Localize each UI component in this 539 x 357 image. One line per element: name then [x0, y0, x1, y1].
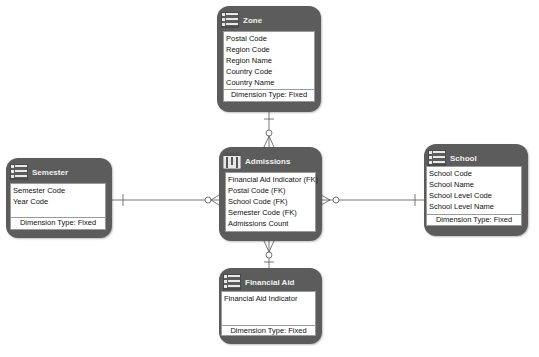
entity-title: Admissions: [245, 157, 290, 166]
entity-body: Semester Code Year Code Dimension Type: …: [10, 183, 106, 230]
attribute: Admissions Count: [228, 218, 313, 229]
fact-table-icon: [223, 153, 241, 169]
dimension-type-label: Dimension Type: Fixed: [222, 325, 315, 336]
attribute: School Code: [429, 168, 519, 179]
entity-zone[interactable]: Zone Postal Code Region Code Region Name…: [217, 6, 321, 112]
dimension-table-icon: [10, 164, 28, 180]
entity-school[interactable]: School School Code School Name School Le…: [424, 144, 528, 236]
entity-title: Financial Aid: [245, 278, 295, 287]
entity-admissions[interactable]: Admissions Financial Aid Indicator (FK) …: [219, 147, 322, 241]
entity-body: School Code School Name School Level Cod…: [426, 166, 522, 226]
entity-header: Admissions: [223, 151, 318, 171]
entity-header: Semester: [10, 162, 108, 182]
entity-title: School: [450, 154, 477, 163]
attribute: Postal Code (FK): [228, 185, 313, 196]
attribute: Semester Code: [13, 185, 103, 196]
dimension-type-label: Dimension Type: Fixed: [427, 214, 521, 225]
attribute: Financial Aid Indicator: [224, 293, 313, 304]
attribute: Year Code: [13, 196, 103, 207]
entity-header: Zone: [221, 10, 317, 30]
entity-financial-aid[interactable]: Financial Aid Financial Aid Indicator Di…: [219, 268, 322, 344]
attribute: Region Code: [226, 44, 312, 55]
entity-header: Financial Aid: [223, 272, 318, 292]
dimension-table-icon: [221, 12, 239, 28]
attribute: Postal Code: [226, 33, 312, 44]
attribute: Financial Aid Indicator (FK): [228, 174, 313, 185]
attribute: School Code (FK): [228, 196, 313, 207]
attribute: Region Name: [226, 55, 312, 66]
attribute: Country Name: [226, 77, 312, 88]
entity-body: Financial Aid Indicator (FK) Postal Code…: [225, 172, 316, 232]
entity-semester[interactable]: Semester Semester Code Year Code Dimensi…: [6, 158, 112, 238]
dimension-type-label: Dimension Type: Fixed: [224, 89, 314, 100]
attribute: School Level Code: [429, 190, 519, 201]
attribute: School Name: [429, 179, 519, 190]
attribute: School Level Name: [429, 201, 519, 212]
dimension-table-icon: [223, 274, 241, 290]
dimension-table-icon: [428, 150, 446, 166]
entity-title: Semester: [32, 168, 68, 177]
attribute: Country Code: [226, 66, 312, 77]
entity-body: Postal Code Region Code Region Name Coun…: [223, 31, 315, 102]
entity-title: Zone: [243, 16, 262, 25]
dimension-type-label: Dimension Type: Fixed: [11, 217, 105, 228]
entity-header: School: [428, 148, 524, 168]
attribute: Semester Code (FK): [228, 207, 313, 218]
entity-body: Financial Aid Indicator Dimension Type: …: [221, 291, 316, 336]
